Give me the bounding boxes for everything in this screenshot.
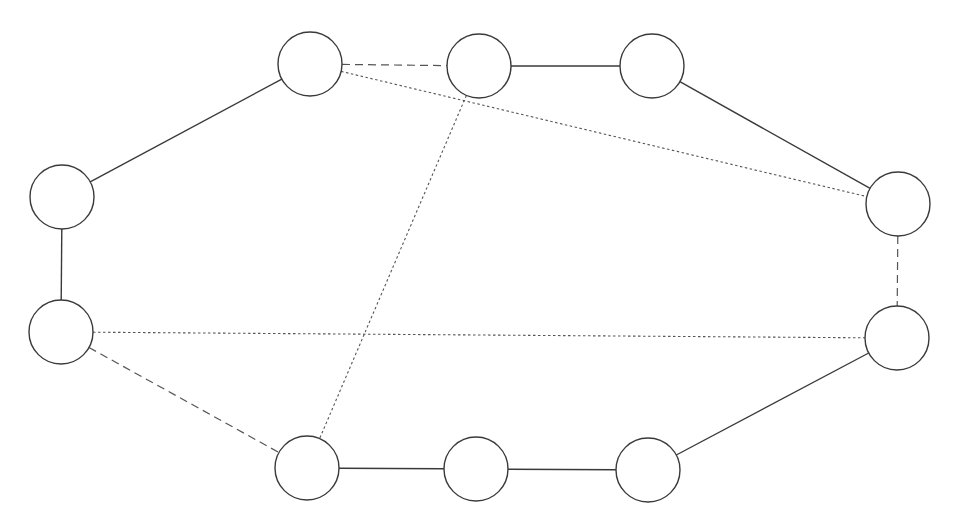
graph-node-n2 [447, 34, 511, 98]
graph-node-n5 [29, 300, 93, 364]
graph-node-n7 [865, 306, 929, 370]
edge-dashed-n1-n2 [342, 64, 447, 65]
edge-dotted-n2-n8 [320, 95, 467, 438]
graph-node-n1 [278, 32, 342, 96]
edge-solid-n4-n5 [61, 229, 62, 300]
graph-node-n4 [30, 165, 94, 229]
edge-dotted-n5-n7 [93, 332, 865, 338]
edge-dashed-n5-n8 [89, 348, 279, 453]
edge-solid-n7-n10 [676, 353, 868, 455]
graph-node-n3 [620, 34, 684, 98]
graph-node-n6 [866, 172, 930, 236]
graph-diagram [0, 0, 962, 524]
edge-solid-n9-n10 [508, 469, 616, 470]
edge-dashed-n6-n7 [897, 236, 898, 306]
edge-layer [61, 64, 898, 469]
graph-node-n9 [444, 437, 508, 501]
edge-solid-n8-n9 [339, 468, 444, 469]
graph-node-n10 [616, 438, 680, 502]
edge-solid-n3-n6 [680, 82, 870, 189]
edge-dotted-n1-n6 [341, 71, 867, 196]
edge-solid-n1-n4 [90, 79, 282, 182]
node-layer [29, 32, 930, 502]
graph-node-n8 [275, 436, 339, 500]
